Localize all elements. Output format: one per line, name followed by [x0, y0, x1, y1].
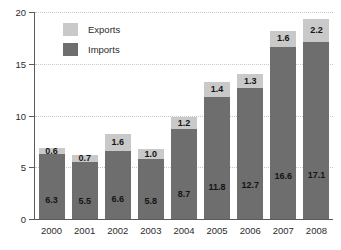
bar-value-imports-2001: 5.5 — [72, 197, 98, 206]
legend-item-exports: Exports — [63, 23, 120, 36]
x-axis-label-2003: 2003 — [138, 225, 164, 236]
bar-group-2000[interactable]: 0.66.3 — [39, 12, 65, 219]
bar-segment-imports-2000[interactable]: 6.3 — [39, 154, 65, 219]
bar-group-2003[interactable]: 1.05.8 — [138, 12, 164, 219]
bar-segment-imports-2004[interactable]: 8.7 — [171, 129, 197, 219]
legend-swatch-exports-icon — [63, 23, 78, 36]
bar-segment-exports-2002[interactable]: 1.6 — [105, 134, 131, 151]
bar-value-imports-2003: 5.8 — [138, 197, 164, 206]
bar-segment-imports-2007[interactable]: 16.6 — [270, 47, 296, 219]
bar-value-exports-2004: 1.2 — [178, 118, 191, 127]
y-tick-label-15: 15 — [15, 58, 26, 69]
y-tick-0 — [29, 219, 34, 220]
x-axis-line — [34, 219, 333, 220]
bar-group-2005[interactable]: 1.411.8 — [204, 12, 230, 219]
bar-value-exports-2002: 1.6 — [112, 138, 125, 147]
x-axis-label-2005: 2005 — [204, 225, 230, 236]
bar-value-imports-2004: 8.7 — [171, 190, 197, 199]
bar-value-exports-2006: 1.3 — [244, 76, 257, 85]
bar-value-imports-2000: 6.3 — [39, 196, 65, 205]
bar-segment-exports-2004[interactable]: 1.2 — [171, 117, 197, 129]
bar-value-imports-2002: 6.6 — [105, 195, 131, 204]
bar-value-imports-2007: 16.6 — [270, 172, 296, 181]
bar-value-exports-2008: 2.2 — [310, 26, 323, 35]
bar-value-exports-2005: 1.4 — [211, 85, 224, 94]
bar-segment-imports-2002[interactable]: 6.6 — [105, 151, 131, 219]
x-axis-label-2002: 2002 — [105, 225, 131, 236]
bar-segment-exports-2007[interactable]: 1.6 — [270, 31, 296, 48]
legend-label-exports: Exports — [88, 24, 120, 35]
bar-segment-imports-2003[interactable]: 5.8 — [138, 159, 164, 219]
x-axis-label-2007: 2007 — [270, 225, 296, 236]
y-tick-5 — [29, 167, 34, 168]
bar-group-2008[interactable]: 2.217.1 — [303, 12, 329, 219]
y-tick-label-20: 20 — [15, 7, 26, 18]
x-axis-labels: 200020012002200320042005200620072008 — [35, 225, 333, 236]
bar-segment-exports-2005[interactable]: 1.4 — [204, 82, 230, 96]
y-tick-label-0: 0 — [21, 214, 26, 225]
bar-value-imports-2006: 12.7 — [237, 181, 263, 190]
y-tick-20 — [29, 12, 34, 13]
bar-value-imports-2008: 17.1 — [303, 171, 329, 180]
x-axis-label-2004: 2004 — [171, 225, 197, 236]
y-tick-label-5: 5 — [21, 162, 26, 173]
bar-segment-exports-2008[interactable]: 2.2 — [303, 19, 329, 42]
bar-segment-exports-2006[interactable]: 1.3 — [237, 74, 263, 87]
x-axis-label-2006: 2006 — [237, 225, 263, 236]
y-tick-10 — [29, 116, 34, 117]
bar-segment-imports-2006[interactable]: 12.7 — [237, 88, 263, 219]
y-tick-15 — [29, 64, 34, 65]
bar-segment-imports-2008[interactable]: 17.1 — [303, 42, 329, 219]
stacked-bar-chart: 05101520 0.66.30.75.51.66.61.05.81.28.71… — [0, 0, 341, 250]
legend-swatch-imports-icon — [63, 43, 78, 56]
legend-label-imports: Imports — [88, 44, 120, 55]
chart-legend: Exports Imports — [63, 23, 120, 63]
bar-value-imports-2005: 11.8 — [204, 183, 230, 192]
x-axis-label-2008: 2008 — [303, 225, 329, 236]
x-axis-label-2000: 2000 — [39, 225, 65, 236]
bar-segment-imports-2005[interactable]: 11.8 — [204, 97, 230, 219]
x-axis-label-2001: 2001 — [72, 225, 98, 236]
legend-item-imports: Imports — [63, 43, 120, 56]
bar-value-exports-2003: 1.0 — [145, 149, 158, 158]
bar-group-2004[interactable]: 1.28.7 — [171, 12, 197, 219]
y-tick-label-10: 10 — [15, 110, 26, 121]
bar-segment-exports-2003[interactable]: 1.0 — [138, 149, 164, 159]
bar-segment-imports-2001[interactable]: 5.5 — [72, 162, 98, 219]
bar-value-exports-2007: 1.6 — [277, 34, 290, 43]
bar-segment-exports-2001[interactable]: 0.7 — [72, 155, 98, 162]
bar-group-2006[interactable]: 1.312.7 — [237, 12, 263, 219]
bar-group-2007[interactable]: 1.616.6 — [270, 12, 296, 219]
